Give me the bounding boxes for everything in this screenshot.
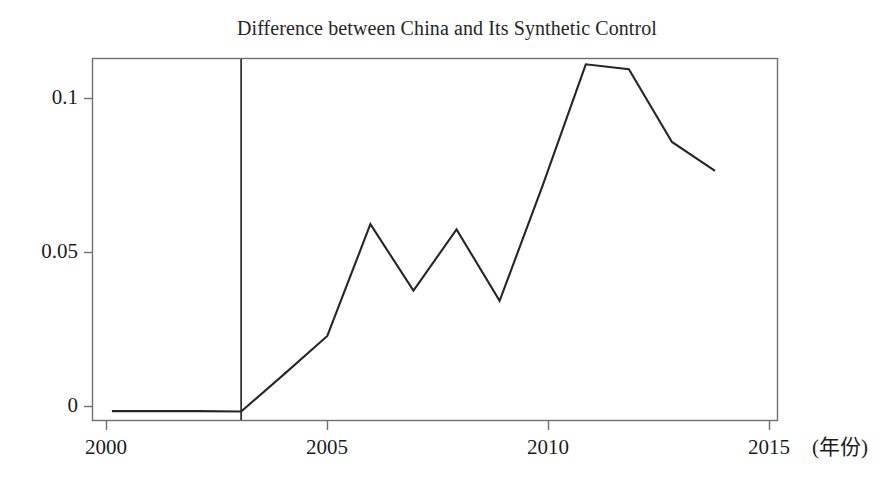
line-chart-plot <box>0 0 894 486</box>
x-axis-tick-marks <box>107 421 770 431</box>
x-tick-label-2010: 2010 <box>498 437 598 458</box>
x-tick-label-2015: 2015 <box>719 437 819 458</box>
y-axis-tick-marks <box>84 99 93 407</box>
x-axis-unit-label: (年份) <box>812 437 868 458</box>
y-tick-label-0: 0 <box>18 395 78 416</box>
x-tick-label-2005: 2005 <box>277 437 377 458</box>
figure-canvas: Difference between China and Its Synthet… <box>0 0 894 486</box>
data-series-line <box>112 64 715 411</box>
plot-frame <box>93 59 778 421</box>
y-tick-label-0.05: 0.05 <box>6 241 78 262</box>
x-tick-label-2000: 2000 <box>56 437 156 458</box>
y-tick-label-0.1: 0.1 <box>18 87 78 108</box>
